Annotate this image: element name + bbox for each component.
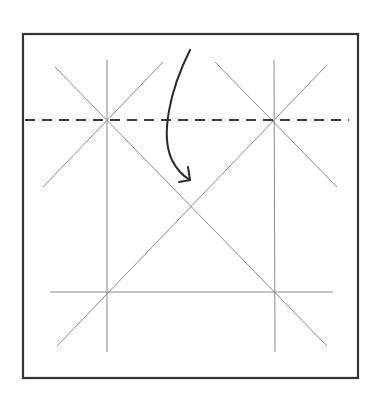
arrowhead-icon (179, 167, 190, 182)
vertical-crease-right (274, 60, 275, 352)
diagonal-crease-short-right (215, 62, 337, 187)
crease-lines (43, 60, 337, 352)
fold-arrow-icon (167, 50, 190, 180)
origami-diagram (0, 0, 377, 395)
diagonal-crease-short-left (43, 62, 163, 187)
